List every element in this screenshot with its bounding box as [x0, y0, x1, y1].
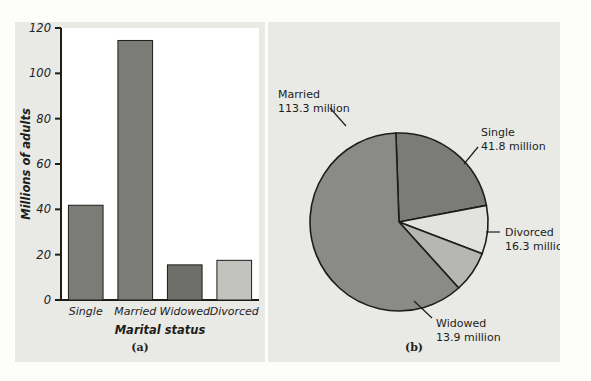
pie-label-value: 113.3 million — [278, 102, 350, 115]
y-tick-label: 100 — [29, 66, 51, 80]
y-axis-ticks: 020406080100120 — [29, 22, 61, 307]
panel-a-bar-chart: 020406080100120 SingleMarriedWidowedDivo… — [15, 22, 265, 362]
bar — [217, 260, 252, 300]
y-tick-label: 60 — [36, 157, 51, 171]
figure-root: 020406080100120 SingleMarriedWidowedDivo… — [0, 0, 591, 381]
panel-b-pie-chart: Married113.3 millionSingle41.8 millionDi… — [268, 22, 560, 362]
y-axis-title: Millions of adults — [19, 108, 33, 220]
y-tick-label: 20 — [36, 248, 51, 262]
pie-label-name: Married — [278, 88, 320, 101]
x-axis-title: Marital status — [115, 323, 206, 337]
pie-leader-line — [464, 147, 478, 164]
pie-slice-group — [310, 133, 488, 311]
x-category-label: Single — [69, 305, 103, 318]
bar — [118, 40, 153, 300]
y-tick-label: 40 — [36, 202, 51, 216]
pie-label-name: Single — [481, 126, 515, 139]
panel-b-caption: (b) — [268, 341, 560, 354]
pie-label-value: 16.3 million — [505, 240, 560, 253]
bar — [68, 205, 103, 300]
panel-a-caption: (a) — [15, 341, 265, 354]
bar-chart-svg: 020406080100120 SingleMarriedWidowedDivo… — [15, 22, 265, 362]
pie-label-value: 41.8 million — [481, 140, 546, 153]
x-category-label: Married — [114, 305, 157, 318]
y-tick-label: 80 — [36, 112, 51, 126]
x-category-label: Divorced — [210, 305, 260, 318]
pie-chart-svg: Married113.3 millionSingle41.8 millionDi… — [268, 22, 560, 362]
x-axis-category-labels: SingleMarriedWidowedDivorced — [69, 305, 260, 318]
x-category-label: Widowed — [160, 305, 211, 318]
y-tick-label: 0 — [44, 293, 51, 307]
pie-label-name: Divorced — [505, 226, 554, 239]
pie-label-name: Widowed — [436, 317, 486, 330]
bar — [167, 265, 202, 300]
y-tick-label: 120 — [29, 22, 51, 35]
